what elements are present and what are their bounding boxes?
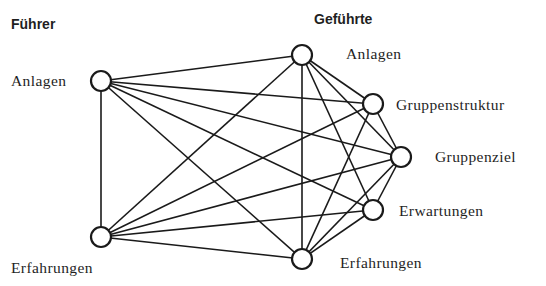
follower-erwartungen-label: Erwartungen bbox=[399, 202, 483, 219]
follower-gruppenstruktur-label: Gruppenstruktur bbox=[396, 96, 505, 113]
node-leader-erfahrungen bbox=[91, 227, 111, 247]
edges-layer bbox=[101, 55, 401, 259]
follower-erfahrungen-label: Erfahrungen bbox=[340, 254, 422, 271]
leader-follower-network-diagram: Führer Geführte Anlagen Erfahrungen Anla… bbox=[0, 0, 546, 286]
edge-fE-gW bbox=[101, 210, 373, 237]
nodes-layer bbox=[91, 45, 411, 269]
edge-fA-gE bbox=[101, 81, 302, 259]
node-follower-erfahrungen bbox=[292, 249, 312, 269]
node-follower-erwartungen bbox=[363, 200, 383, 220]
node-follower-anlagen bbox=[292, 45, 312, 65]
follower-gruppenziel-label: Gruppenziel bbox=[435, 148, 516, 165]
leader-heading: Führer bbox=[11, 16, 56, 32]
edge-gZ-gE bbox=[302, 157, 401, 259]
leader-erfahrungen-label: Erfahrungen bbox=[11, 259, 93, 276]
edge-fE-gS bbox=[101, 104, 373, 237]
edge-fA-gA bbox=[101, 55, 302, 81]
edge-fE-gE bbox=[101, 237, 302, 259]
node-follower-gruppenziel bbox=[391, 147, 411, 167]
edge-gA-gZ bbox=[302, 55, 401, 157]
edge-gA-gW bbox=[302, 55, 373, 210]
followers-heading: Geführte bbox=[314, 11, 373, 27]
node-leader-anlagen bbox=[91, 71, 111, 91]
follower-anlagen-label: Anlagen bbox=[346, 45, 401, 62]
leader-anlagen-label: Anlagen bbox=[11, 72, 66, 89]
node-follower-gruppenstruktur bbox=[363, 94, 383, 114]
